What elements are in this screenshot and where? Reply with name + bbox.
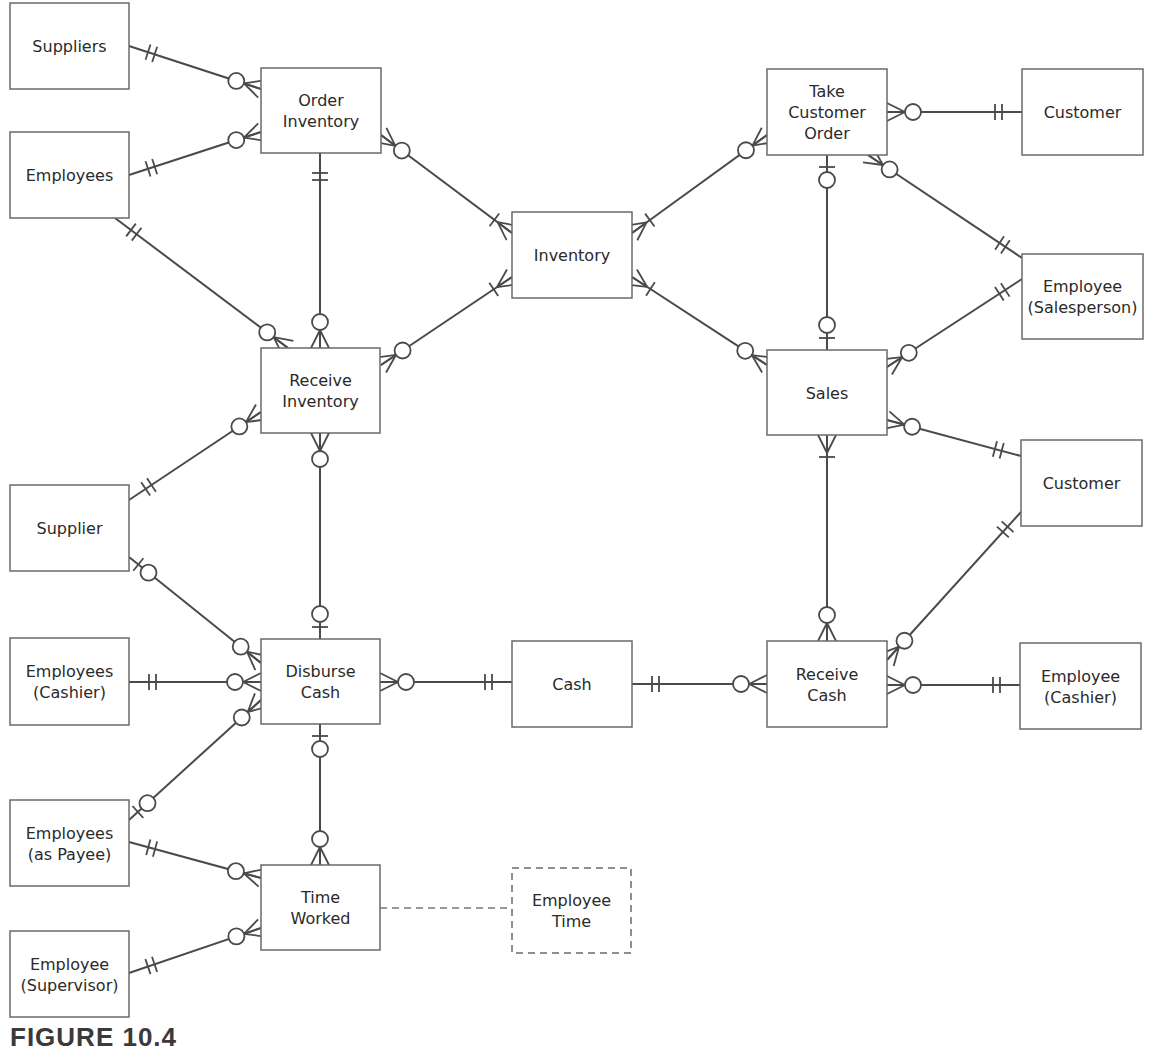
cardinality-bar bbox=[126, 224, 136, 237]
cardinality-circle bbox=[882, 161, 898, 177]
entity-label: Customer bbox=[788, 103, 866, 122]
cardinality-circle bbox=[234, 709, 250, 725]
relationship-receive-cash-to-customer-mid bbox=[880, 512, 1021, 666]
entity-label: Inventory bbox=[282, 392, 358, 411]
cardinality-circle bbox=[398, 674, 414, 690]
entity-label: Employees bbox=[26, 166, 114, 185]
relationship-take-customer-order-to-inventory bbox=[627, 128, 773, 241]
crows-foot bbox=[243, 673, 261, 682]
entity-label: Employees bbox=[26, 662, 114, 681]
relationship-receive-inventory-to-supplier bbox=[129, 405, 266, 500]
entity-employees-payee: Employees(as Payee) bbox=[10, 800, 129, 886]
cardinality-circle bbox=[228, 928, 244, 944]
cardinality-bar bbox=[1001, 283, 1010, 296]
entity-employees: Employees bbox=[10, 132, 129, 218]
entity-employee-cashier: Employee(Cashier) bbox=[1020, 643, 1141, 729]
relationship-disburse-cash-to-time-worked bbox=[311, 724, 329, 865]
relationship-take-customer-order-to-employee-salesperson bbox=[863, 148, 1022, 258]
cardinality-circle bbox=[901, 345, 917, 361]
entity-box bbox=[512, 868, 631, 953]
cardinality-circle bbox=[395, 343, 411, 359]
entity-supplier: Supplier bbox=[10, 485, 129, 571]
relationship-order-inventory-to-receive-inventory bbox=[311, 153, 329, 348]
entity-box bbox=[10, 931, 129, 1017]
entity-sales: Sales bbox=[767, 350, 887, 435]
entity-box bbox=[10, 638, 129, 725]
cardinality-bar bbox=[645, 214, 654, 227]
crows-foot bbox=[749, 684, 767, 693]
crows-foot bbox=[243, 682, 261, 691]
relationship-sales-to-inventory bbox=[627, 269, 772, 372]
cardinality-bar bbox=[646, 282, 655, 295]
figure-caption: FIGURE 10.4 bbox=[10, 1022, 177, 1050]
cardinality-circle bbox=[733, 676, 749, 692]
cardinality-circle bbox=[819, 607, 835, 623]
cardinality-circle bbox=[896, 633, 912, 649]
relationship-suppliers-to-order-inventory bbox=[129, 45, 264, 98]
entity-label: Cash bbox=[807, 686, 846, 705]
cardinality-circle bbox=[905, 104, 921, 120]
relationship-take-customer-order-to-customer-top bbox=[887, 103, 1022, 121]
entity-label: Receive bbox=[289, 371, 352, 390]
entity-receive-inventory: ReceiveInventory bbox=[261, 348, 380, 433]
relationship-sales-to-customer-mid bbox=[885, 411, 1021, 458]
entity-label: Employee bbox=[1041, 667, 1120, 686]
entity-label: Suppliers bbox=[32, 37, 106, 56]
entity-box bbox=[1020, 643, 1141, 729]
cardinality-circle bbox=[228, 863, 244, 879]
cardinality-bar bbox=[141, 482, 150, 495]
relationship-disburse-cash-to-cash bbox=[380, 673, 512, 691]
entity-employee-time: EmployeeTime bbox=[512, 868, 631, 953]
entity-label: Employees bbox=[26, 824, 114, 843]
entity-customer-mid: Customer bbox=[1021, 440, 1142, 526]
relationship-employees-payee-to-disburse-cash bbox=[129, 693, 267, 820]
cardinality-circle bbox=[312, 741, 328, 757]
entity-order-inventory: OrderInventory bbox=[261, 68, 381, 153]
entity-box bbox=[261, 639, 380, 724]
entities: SuppliersEmployeesOrderInventoryInventor… bbox=[10, 3, 1143, 1017]
relationship-supplier-to-disburse-cash bbox=[129, 557, 267, 670]
crows-foot bbox=[311, 330, 320, 348]
entity-box bbox=[10, 800, 129, 886]
relationship-employees-to-receive-inventory bbox=[115, 218, 293, 355]
relationship-employee-supervisor-to-time-worked bbox=[129, 919, 264, 974]
relationship-employees-to-order-inventory bbox=[129, 123, 264, 176]
crows-foot bbox=[311, 433, 320, 451]
cardinality-circle bbox=[819, 172, 835, 188]
cardinality-circle bbox=[312, 606, 328, 622]
cardinality-bar bbox=[995, 287, 1004, 300]
crows-foot bbox=[818, 623, 827, 641]
entity-label: Sales bbox=[806, 384, 849, 403]
entity-take-customer-order: TakeCustomerOrder bbox=[767, 69, 887, 155]
crows-foot bbox=[320, 433, 329, 451]
entity-label: Employee bbox=[30, 955, 109, 974]
entity-label: (as Payee) bbox=[28, 845, 112, 864]
crows-foot bbox=[380, 673, 398, 682]
entity-label: (Supervisor) bbox=[21, 976, 119, 995]
cardinality-circle bbox=[819, 317, 835, 333]
entity-cash: Cash bbox=[512, 641, 632, 727]
entity-label: Employee bbox=[532, 891, 611, 910]
entity-label: Supplier bbox=[37, 519, 103, 538]
cardinality-circle bbox=[904, 419, 920, 435]
entity-label: Inventory bbox=[534, 246, 610, 265]
entity-label: Cash bbox=[301, 683, 340, 702]
relationship-order-inventory-to-inventory bbox=[376, 128, 518, 240]
cardinality-bar bbox=[1001, 240, 1010, 253]
cardinality-bar bbox=[489, 283, 498, 296]
entity-label: (Cashier) bbox=[1044, 688, 1117, 707]
cardinality-circle bbox=[233, 639, 249, 655]
entity-label: Customer bbox=[1043, 474, 1121, 493]
crows-foot bbox=[749, 675, 767, 684]
entity-label: Receive bbox=[796, 665, 859, 684]
entity-label: Time bbox=[551, 912, 591, 931]
entity-receive-cash: ReceiveCash bbox=[767, 641, 887, 727]
relationship-sales-to-employee-salesperson bbox=[882, 279, 1022, 375]
entity-employee-salesperson: Employee(Salesperson) bbox=[1022, 254, 1143, 339]
entity-box bbox=[261, 865, 380, 950]
cardinality-circle bbox=[259, 324, 275, 340]
entity-label: Customer bbox=[1044, 103, 1122, 122]
entity-customer-top: Customer bbox=[1022, 69, 1143, 155]
relationship-cash-to-receive-cash bbox=[632, 675, 767, 693]
